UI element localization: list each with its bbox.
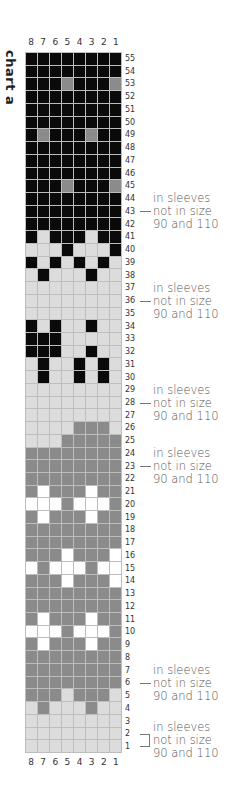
chart-cell [38,218,49,230]
chart-cell [74,486,85,498]
chart-cell [74,498,85,510]
chart-cell [26,193,37,205]
chart-cell [110,638,121,650]
chart-cell [26,677,37,689]
chart-cell [98,320,109,332]
chart-cell [74,333,85,345]
row-number: 22 [125,473,145,486]
chart-cell [74,117,85,129]
row-number: 24 [125,447,145,460]
chart-cell [74,588,85,600]
chart-cell [98,728,109,740]
chart-cell [50,575,61,587]
column-label: 4 [74,37,86,47]
row-number: 7 [125,664,145,677]
chart-cell [26,626,37,638]
chart-cell [110,511,121,523]
row-number: 9 [125,638,145,651]
chart-cell [50,740,61,752]
chart-cell [74,537,85,549]
chart-cell [38,117,49,129]
chart-cell [110,308,121,320]
chart-cell [98,397,109,409]
chart-cell [74,524,85,536]
chart-cell [26,588,37,600]
chart-cell [50,308,61,320]
chart-cell [74,308,85,320]
annotation-line: 90 and 110 [153,473,219,486]
chart-cell [62,460,73,472]
chart-cell [110,269,121,281]
column-label: 8 [25,757,37,767]
chart-cell [26,218,37,230]
chart-cell [74,257,85,269]
column-labels-top: 87654321 [25,37,122,47]
chart-cell [98,549,109,561]
chart-cell [26,206,37,218]
row-number: 17 [125,536,145,549]
chart-cell [86,78,97,90]
chart-cell [110,320,121,332]
chart-cell [26,142,37,154]
chart-cell [38,524,49,536]
chart-cell [98,358,109,370]
chart-cell [62,269,73,281]
chart-cell [38,371,49,383]
chart-cell [38,638,49,650]
chart-cell [110,689,121,701]
chart-cell [62,728,73,740]
chart-cell [26,638,37,650]
chart-cell [110,562,121,574]
annotation-line: in sleeves [153,384,219,397]
chart-cell [26,613,37,625]
column-label: 5 [61,37,73,47]
chart-cell [62,651,73,663]
column-label: 7 [37,757,49,767]
chart-cell [98,486,109,498]
chart-cell [50,320,61,332]
chart-cell [50,588,61,600]
chart-cell [86,282,97,294]
chart-cell [74,638,85,650]
chart-cell [74,409,85,421]
chart-cell [38,409,49,421]
chart-cell [98,193,109,205]
annotation-text: in sleevesnot in size90 and 110 [153,447,219,486]
chart-cell [38,575,49,587]
chart-cell [110,740,121,752]
chart-cell [74,689,85,701]
chart-cell [98,740,109,752]
chart-cell [110,486,121,498]
row-number: 52 [125,90,145,103]
chart-cell [50,600,61,612]
chart-cell [86,409,97,421]
chart-cell [110,193,121,205]
chart-cell [26,333,37,345]
chart-cell [86,244,97,256]
chart-cell [26,66,37,78]
chart-cell [86,638,97,650]
chart-cell [98,218,109,230]
chart-cell [86,53,97,65]
chart-cell [26,53,37,65]
chart-cell [110,168,121,180]
chart-cell [110,524,121,536]
chart-cell [74,155,85,167]
chart-cell [38,244,49,256]
chart-cell [74,677,85,689]
chart-cell [110,66,121,78]
chart-cell [98,142,109,154]
chart-cell [74,435,85,447]
chart-cell [26,104,37,116]
chart-cell [98,575,109,587]
row-number: 51 [125,103,145,116]
chart-cell [86,677,97,689]
chart-cell [110,117,121,129]
chart-cell [62,702,73,714]
row-number: 47 [125,154,145,167]
chart-cell [110,218,121,230]
chart-cell [74,231,85,243]
chart-cell [98,308,109,320]
chart-cell [86,626,97,638]
column-label: 7 [37,37,49,47]
